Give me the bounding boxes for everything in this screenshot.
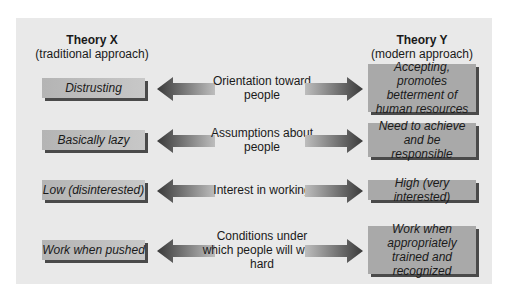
right-arrow-icon	[305, 129, 363, 153]
theory-x-subtitle: (traditional approach)	[22, 47, 162, 61]
theory-x-interest-box: Low (disinterested)	[42, 180, 145, 200]
theory-x-assumptions-box: Basically lazy	[42, 130, 145, 150]
right-arrow-icon	[305, 179, 363, 203]
theory-y-assumptions-box: Need to achieve and be responsible	[368, 123, 476, 157]
right-arrow-icon	[305, 77, 363, 101]
theory-x-header: Theory X (traditional approach)	[22, 33, 162, 61]
theory-y-conditions-box: Work when appropriately trained and reco…	[368, 226, 476, 274]
theory-x-conditions-box: Work when pushed	[42, 240, 145, 260]
theory-x-orientation-box: Distrusting	[42, 78, 145, 98]
right-arrow-icon	[305, 239, 363, 263]
theory-x-title: Theory X	[22, 33, 162, 47]
theory-y-subtitle: (modern approach)	[352, 47, 492, 61]
theory-y-interest-box: High (very interested)	[368, 180, 476, 200]
theory-y-orientation-box: Accepting, promotes betterment of human …	[368, 64, 476, 112]
theory-y-header: Theory Y (modern approach)	[352, 33, 492, 61]
theory-y-title: Theory Y	[352, 33, 492, 47]
